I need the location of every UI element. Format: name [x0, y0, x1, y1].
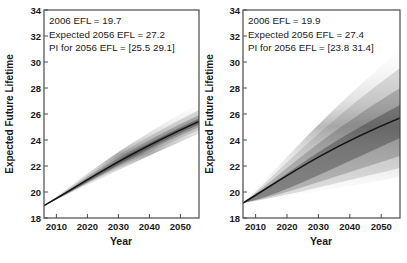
y-tick-label: 34 — [229, 5, 240, 16]
y-tick-label: 28 — [30, 83, 41, 94]
x-tick-label: 2020 — [77, 221, 98, 232]
y-tick-label: 22 — [229, 161, 240, 172]
panel-right: 18 20 22 24 26 28 30 32 34 2010 2020 203… — [203, 0, 406, 263]
panel-left: 18 20 22 24 26 28 30 32 34 2010 2020 203… — [0, 0, 203, 263]
y-tick-label: 30 — [229, 57, 240, 68]
y-tick-label: 34 — [30, 5, 41, 16]
y-tick-label: 18 — [229, 213, 240, 224]
x-tick-label: 2010 — [245, 221, 266, 232]
y-tick-label: 32 — [30, 31, 41, 42]
y-tick-label: 22 — [30, 161, 41, 172]
y-tick-label: 24 — [30, 135, 41, 146]
right-fan-chart: 18 20 22 24 26 28 30 32 34 2010 2020 203… — [203, 0, 407, 263]
annotation-line-2: Expected 2056 EFL = 27.2 — [49, 29, 165, 40]
x-axis-label: Year — [310, 235, 332, 247]
x-tick-label: 2020 — [276, 221, 297, 232]
annotation-line-1: 2006 EFL = 19.9 — [248, 15, 320, 26]
x-tick-label: 2050 — [371, 221, 392, 232]
y-tick-label: 26 — [229, 109, 240, 120]
y-axis-label: Expected Future Lifetime — [4, 54, 15, 174]
annotation-line-3: PI for 2056 EFL = [25.5 29.1] — [49, 42, 175, 53]
y-tick-label: 32 — [229, 31, 240, 42]
y-tick-label: 26 — [30, 109, 41, 120]
y-tick-label: 28 — [229, 83, 240, 94]
annotation-line-2: Expected 2056 EFL = 27.4 — [248, 29, 364, 40]
x-tick-label: 2050 — [170, 221, 191, 232]
y-tick-label: 20 — [30, 187, 41, 198]
y-tick-label: 30 — [30, 57, 41, 68]
x-tick-label: 2010 — [46, 221, 67, 232]
y-tick-label: 20 — [229, 187, 240, 198]
y-axis-label: Expected Future Lifetime — [204, 54, 215, 174]
x-tick-label: 2040 — [339, 221, 360, 232]
y-tick-label: 24 — [229, 135, 240, 146]
x-tick-label: 2040 — [139, 221, 160, 232]
annotation-line-1: 2006 EFL = 19.7 — [49, 15, 121, 26]
x-axis-label: Year — [110, 235, 132, 247]
x-tick-label: 2030 — [108, 221, 129, 232]
left-fan-chart: 18 20 22 24 26 28 30 32 34 2010 2020 203… — [0, 0, 203, 263]
figure-container: 18 20 22 24 26 28 30 32 34 2010 2020 203… — [0, 0, 407, 263]
x-tick-label: 2030 — [308, 221, 329, 232]
y-tick-label: 18 — [30, 213, 41, 224]
annotation-line-3: PI for 2056 EFL = [23.8 31.4] — [248, 42, 374, 53]
